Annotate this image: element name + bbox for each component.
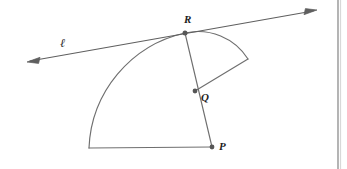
line-label-l: ℓ: [60, 37, 65, 49]
geometry-figure: R Q P ℓ: [0, 0, 347, 169]
large-arc-path: [89, 33, 185, 148]
point-label-p: P: [219, 141, 226, 152]
point-label-r: R: [184, 14, 191, 25]
point-p-dot: [210, 145, 215, 150]
small-arc-path: [185, 32, 248, 59]
point-label-q: Q: [201, 92, 209, 103]
line-l-arrowhead-left: [27, 57, 40, 63]
point-r-dot: [183, 31, 188, 36]
geometry-diagram-canvas: [0, 0, 347, 169]
small-sector-radius: [195, 59, 248, 91]
large-sector-radius-upper: [185, 33, 212, 147]
large-sector-radius-bottom: [89, 147, 212, 148]
line-l-arrowhead-right: [304, 9, 317, 15]
point-q-dot: [193, 89, 198, 94]
line-l-segment: [30, 11, 313, 61]
